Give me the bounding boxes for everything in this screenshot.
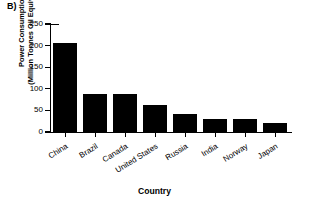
x-axis-tick [125,133,126,137]
x-axis-tick [185,133,186,137]
bar [83,94,107,132]
x-axis-tick [275,133,276,137]
figure-panel-b: B) Power Consumption (Million Tonnes Oil… [0,0,309,210]
x-axis-tick [245,133,246,137]
bar [113,94,137,132]
bar [233,119,257,132]
y-axis-tick-label: 0 [17,128,43,136]
x-axis-tick [155,133,156,137]
plot-area [50,24,290,132]
x-axis-spine [50,132,292,133]
bar [53,43,77,132]
y-axis-tick-label: 200 [17,42,43,50]
y-axis-tick-label: 250 [17,20,43,28]
bar [173,114,197,132]
x-axis-category-label: Japan [222,142,279,182]
x-axis-tick [65,133,66,137]
x-axis-tick [95,133,96,137]
bar [263,123,287,132]
y-axis-tick-label: 100 [17,85,43,93]
y-axis-tick-label: 150 [17,63,43,71]
x-axis-title: Country [0,186,309,196]
x-axis-tick [215,133,216,137]
y-axis-tick-label: 50 [17,106,43,114]
bar [203,119,227,132]
y-axis-title-line-1: Power Consumption [17,0,26,67]
bar [143,105,167,132]
